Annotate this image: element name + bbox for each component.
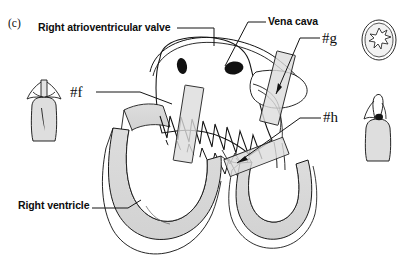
label-marker-g: #g (322, 31, 337, 46)
inset-left-vessel-leaflet-a (27, 82, 41, 99)
inset-top-right-cross-section (362, 20, 396, 60)
inset-bottom-right-vessel (364, 94, 391, 161)
inset-br-vessel-body (365, 119, 390, 161)
label-vena-cava: Vena cava (268, 16, 318, 27)
panel-letter: (c) (8, 18, 21, 30)
inset-left-vessel (27, 80, 61, 141)
inset-br-vessel-orifice (375, 114, 383, 120)
label-marker-f: #f (70, 85, 83, 100)
label-marker-h: #h (323, 110, 338, 125)
label-right-atrioventricular-valve: Right atrioventricular valve (38, 22, 171, 33)
figure-panel-c: (c) Right atrioventricular valve Vena ca… (0, 0, 403, 268)
second-ventricle-cavity (249, 162, 299, 222)
inset-left-vessel-body (31, 97, 56, 141)
label-right-ventricle: Right ventricle (18, 200, 89, 211)
inset-left-vessel-stem (41, 80, 47, 97)
inset-left-vessel-leaflet-b (47, 82, 61, 99)
heart-diagram-illustration (0, 0, 403, 268)
